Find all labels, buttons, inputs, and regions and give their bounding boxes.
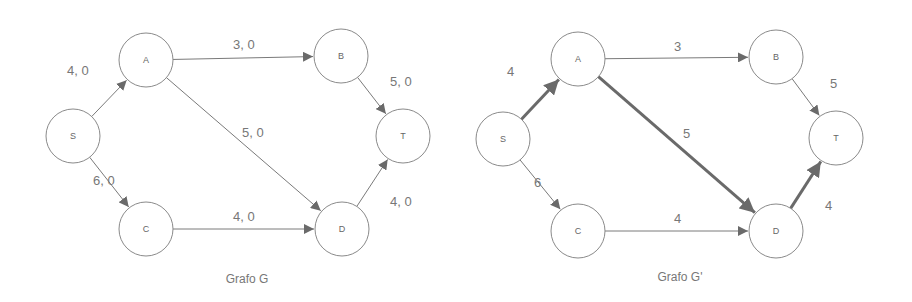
arrow-icon [166,78,320,211]
arrow-icon [791,162,821,209]
node-b: B [314,29,368,83]
edge-label: 3, 0 [233,37,255,52]
arrow-icon [792,79,819,116]
edge-a-b: 3, 0 [173,37,313,60]
node-d: D [749,204,803,258]
edge-label: 4, 0 [233,209,255,224]
flow-network-diagram: 4, 03, 05, 05, 06, 04, 04, 0SABTCDGrafo … [0,0,912,302]
graph-caption: Grafo G [226,272,269,286]
arrow-icon [358,77,386,114]
node-s: S [46,109,100,163]
node-b: B [749,30,803,84]
edge-s-c: 6 [520,160,560,209]
edge-label: 5, 0 [242,125,264,140]
edge-label: 6, 0 [93,173,115,188]
graph-g-prime: 4355644SABTCDGrafo G' [476,30,863,284]
edge-label: 6 [534,175,541,190]
node-label: S [70,131,76,141]
edge-b-t: 5, 0 [358,74,412,114]
node-c: C [119,202,173,256]
node-label: A [143,55,149,65]
graph-g: 4, 03, 05, 05, 06, 04, 04, 0SABTCDGrafo … [46,29,430,286]
edge-label: 3 [674,39,681,54]
node-t: T [376,109,430,163]
edge-label: 4 [825,198,832,213]
arrow-icon [173,57,313,60]
edge-label: 4 [507,64,514,79]
node-label: C [143,224,150,234]
edge-label: 5, 0 [390,74,412,89]
arrow-icon [521,79,558,119]
edge-s-a: 4 [507,64,559,120]
edge-label: 5 [830,76,837,91]
node-label: A [575,54,581,64]
arrow-icon [605,57,748,58]
node-a: A [119,33,173,87]
edge-d-t: 4, 0 [357,159,412,208]
arrow-icon [92,80,127,116]
arrow-icon [357,159,388,206]
edge-c-d: 4, 0 [173,209,314,230]
edge-c-d: 4 [605,211,748,232]
node-label: C [575,226,582,236]
edge-label: 4, 0 [390,194,412,209]
edge-a-d: 5, 0 [166,78,320,211]
node-label: B [773,52,779,62]
edge-b-t: 5 [792,76,837,116]
node-label: D [339,224,346,234]
edge-s-c: 6, 0 [90,157,129,207]
edge-label: 5 [683,126,690,141]
graph-caption: Grafo G' [658,270,703,284]
edge-label: 4, 0 [67,63,89,78]
node-label: T [400,131,406,141]
edge-label: 4 [674,211,681,226]
edge-a-d: 5 [598,77,754,213]
node-label: D [773,226,780,236]
node-label: B [338,51,344,61]
edge-s-a: 4, 0 [67,63,127,117]
node-label: S [500,134,506,144]
edge-d-t: 4 [791,162,833,213]
node-c: C [551,204,605,258]
node-s: S [476,112,530,166]
arrow-icon [598,77,754,213]
node-a: A [551,32,605,86]
edge-a-b: 3 [605,39,748,59]
node-label: T [833,133,839,143]
node-t: T [809,111,863,165]
node-d: D [315,202,369,256]
